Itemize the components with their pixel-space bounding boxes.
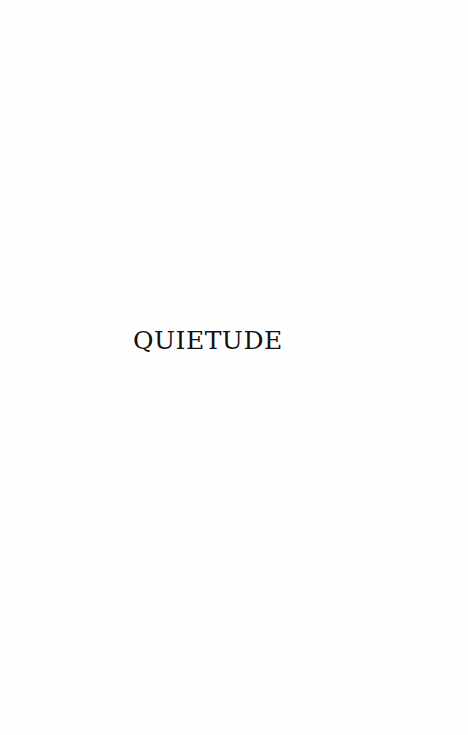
book-page: QUIETUDE — [0, 0, 468, 735]
page-title: QUIETUDE — [133, 326, 283, 356]
